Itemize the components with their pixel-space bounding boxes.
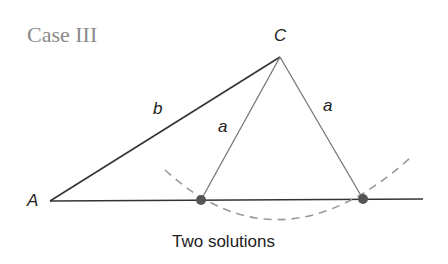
dashed-arc — [165, 158, 410, 220]
side-b — [50, 57, 280, 201]
side-a-right — [280, 57, 363, 199]
solution-point-1 — [196, 195, 206, 205]
side-b-label: b — [153, 99, 162, 119]
side-a-left — [201, 57, 280, 200]
solution-point-2 — [358, 194, 368, 204]
vertex-a-label: A — [27, 191, 38, 211]
caption: Two solutions — [172, 232, 275, 252]
side-a-left-label: a — [218, 117, 227, 137]
side-a-right-label: a — [323, 96, 332, 116]
vertex-c-label: C — [274, 26, 286, 46]
